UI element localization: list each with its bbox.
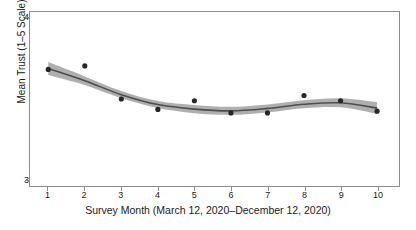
x-tick-label-8: 8: [293, 191, 317, 200]
data-point: [82, 63, 87, 68]
data-point: [374, 109, 379, 114]
chart-figure: Mean Trust (1–5 Scale) 4 3 12345678910 S…: [0, 0, 416, 230]
x-tick-label-7: 7: [256, 191, 280, 200]
x-tick-label-9: 9: [329, 191, 353, 200]
x-tick-label-5: 5: [182, 191, 206, 200]
x-tick-label-4: 4: [146, 191, 170, 200]
data-point: [338, 98, 343, 103]
plot-canvas: [30, 12, 399, 186]
data-point: [192, 98, 197, 103]
x-axis-title: Survey Month (March 12, 2020–December 12…: [0, 204, 416, 216]
data-point: [265, 110, 270, 115]
x-tick-label-2: 2: [72, 191, 96, 200]
data-point: [301, 93, 306, 98]
data-point: [155, 107, 160, 112]
plot-area: [29, 11, 400, 187]
x-tick-label-6: 6: [219, 191, 243, 200]
confidence-band: [48, 62, 377, 115]
data-point: [46, 67, 51, 72]
x-tick-label-1: 1: [35, 191, 59, 200]
data-point: [119, 96, 124, 101]
x-tick-label-3: 3: [109, 191, 133, 200]
data-point: [228, 110, 233, 115]
x-tick-label-10: 10: [366, 191, 390, 200]
